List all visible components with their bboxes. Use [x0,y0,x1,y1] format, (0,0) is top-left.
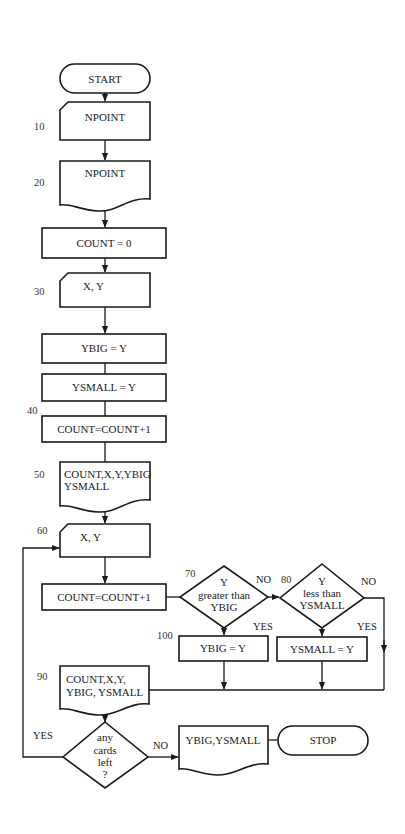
decision-greater-than-ybig: 70 Y greater than YBIG NO YES [180,566,273,632]
process-label: YSMALL = Y [290,643,354,655]
decision-label-line2: cards [93,744,116,756]
step-number-100: 100 [157,630,173,641]
decision-label-line1: Y [318,575,326,587]
process-label: COUNT = 0 [77,237,132,249]
edge-label-no: NO [153,740,169,751]
process-update-ysmall: YSMALL = Y [277,637,367,661]
input-card-npoint: 10 NPOINT [34,102,150,140]
edge-label-yes: YES [357,621,377,632]
process-label: YBIG = Y [81,342,127,354]
document-label: NPOINT [85,167,126,179]
document-label: YBIG,YSMALL [186,734,261,746]
output-document-loop: 90 COUNT,X,Y, YBIG, YSMALL [37,666,149,715]
decision-less-than-ysmall: 80 Y less than YSMALL NO YES [280,564,377,632]
decision-label-line1: Y [220,576,228,588]
card-label: NPOINT [85,111,126,123]
edge-label-yes: YES [253,621,273,632]
process-count-increment-first: 40 COUNT=COUNT+1 [27,405,166,442]
step-number-10: 10 [34,121,45,132]
output-document-result: YBIG,YSMALL [179,726,268,775]
document-label-line2: YBIG, YSMALL [66,686,143,698]
decision-label-line2: less than [303,587,342,599]
process-label: COUNT=COUNT+1 [57,591,151,603]
step-number-60: 60 [37,525,48,536]
process-ysmall-init: YSMALL = Y [42,374,166,401]
card-label: X, Y [83,280,104,292]
document-label-line2: YSMALL [64,480,110,492]
process-count-zero: COUNT = 0 [42,228,166,258]
flowchart-canvas: START 10 NPOINT 20 NPOINT COUNT = 0 30 X… [0,0,405,834]
process-ybig-init: YBIG = Y [42,334,166,363]
start-label: START [88,73,122,85]
stop-label: STOP [310,734,337,746]
process-count-increment-loop: COUNT=COUNT+1 [42,584,166,610]
edge-label-no: NO [256,574,272,585]
process-update-ybig: 100 YBIG = Y [157,630,268,661]
step-number-50: 50 [34,469,45,480]
output-document-first: 50 COUNT,X,Y,YBIG YSMALL [34,462,151,512]
stop-terminal: STOP [278,726,368,755]
step-number-70: 70 [185,568,196,579]
decision-label-line2: greater than [198,589,251,601]
decision-any-cards-left: any cards left ? YES NO [33,722,169,788]
document-label-line1: COUNT,X,Y, [66,673,126,685]
decision-label-line1: any [97,731,113,743]
decision-label-line4: ? [103,768,108,780]
input-card-xy-loop: 60 X, Y [37,524,150,557]
input-card-xy-first: 30 X, Y [34,273,150,307]
document-label-line1: COUNT,X,Y,YBIG [64,468,151,480]
step-number-80: 80 [281,574,292,585]
step-number-30: 30 [34,286,45,297]
start-terminal: START [60,64,150,93]
step-number-20: 20 [34,177,45,188]
process-label: COUNT=COUNT+1 [57,423,151,435]
process-label: YSMALL = Y [72,381,136,393]
step-number-90: 90 [37,671,48,682]
edge-label-yes: YES [33,730,53,741]
output-document-npoint: 20 NPOINT [34,161,150,211]
process-label: YBIG = Y [200,642,246,654]
step-number-40: 40 [27,405,38,416]
card-label: X, Y [80,531,101,543]
decision-label-line3: YBIG [211,601,238,613]
edge-label-no: NO [361,576,377,587]
decision-label-line3: YSMALL [299,599,345,611]
edge-cards-yes-loop [23,548,63,757]
decision-label-line3: left [98,756,113,768]
